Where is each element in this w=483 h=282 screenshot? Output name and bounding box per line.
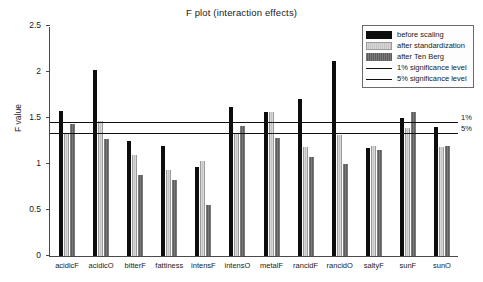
bar — [400, 118, 404, 256]
legend-label: 1% significance level — [397, 63, 467, 73]
bar — [366, 148, 370, 256]
bar — [93, 70, 97, 256]
bar-group — [59, 27, 75, 256]
legend-swatch — [366, 53, 392, 61]
bar — [371, 146, 376, 256]
bar — [377, 150, 382, 256]
bar — [275, 138, 280, 256]
y-tick-label: 2.5 — [29, 20, 41, 30]
bar — [64, 134, 69, 256]
bar-group — [332, 27, 348, 256]
bar — [138, 175, 143, 256]
bar — [229, 107, 233, 256]
x-axis-tick-label: acidicO — [89, 261, 114, 270]
bar — [206, 205, 211, 256]
y-tick-label: 1 — [36, 158, 41, 168]
bar-group — [127, 27, 143, 256]
bar-group — [264, 27, 280, 256]
x-axis-tick-label: rancidF — [293, 261, 318, 270]
x-axis-tick-label: saltyF — [364, 261, 384, 270]
bar-group — [161, 27, 177, 256]
x-axis-tick-label: acidicF — [55, 261, 79, 270]
f-plot-figure: F plot (interaction effects) F value 00.… — [0, 0, 483, 282]
bar — [166, 170, 171, 256]
bar — [269, 112, 274, 256]
bar-group — [195, 27, 211, 256]
bar — [303, 147, 308, 256]
bar — [337, 135, 342, 256]
legend-label: after Ten Berg — [397, 52, 444, 62]
legend-item: after Ten Berg — [366, 51, 469, 62]
legend-item: 5% significance level — [366, 73, 469, 84]
bar-group — [93, 27, 109, 256]
legend: before scalingafter standardizationafter… — [362, 25, 474, 88]
bar — [405, 128, 410, 256]
y-tick-label: 0 — [36, 250, 41, 260]
bar-group — [229, 27, 245, 256]
bar — [98, 121, 103, 256]
bar — [70, 124, 75, 256]
bar — [172, 180, 177, 256]
bar — [200, 161, 205, 256]
significance-line-5pct: 5% — [50, 133, 458, 134]
significance-line-label: 5% — [461, 124, 472, 133]
bar — [439, 147, 444, 256]
bar-group — [298, 27, 314, 256]
significance-line-label: 1% — [461, 113, 472, 122]
legend-swatch — [366, 42, 392, 50]
legend-label: before scaling — [397, 30, 444, 40]
bar — [234, 134, 239, 256]
x-axis-tick-label: intensO — [225, 261, 251, 270]
x-axis-tick-label: fattiness — [155, 261, 183, 270]
bar — [132, 155, 137, 256]
legend-item: 1% significance level — [366, 62, 469, 73]
y-tick-label: 0.5 — [29, 204, 41, 214]
significance-line-1pct: 1% — [50, 122, 458, 123]
bar — [240, 126, 245, 256]
legend-swatch — [366, 31, 392, 39]
legend-line-marker — [366, 75, 392, 83]
chart-title: F plot (interaction effects) — [0, 7, 483, 18]
x-axis-tick-label: sunF — [400, 261, 417, 270]
bar — [195, 167, 199, 256]
y-axis-label: F value — [13, 104, 23, 132]
y-tick-label: 2 — [36, 66, 41, 76]
legend-line-marker — [366, 64, 392, 72]
bar — [434, 127, 438, 256]
bar — [445, 146, 450, 256]
bar — [161, 146, 165, 256]
bar — [127, 141, 131, 256]
bar — [104, 139, 109, 256]
bar — [332, 61, 336, 256]
x-axis-tick-label: intensF — [191, 261, 216, 270]
x-axis-tick-label: sunO — [433, 261, 451, 270]
y-tick: 2.5 — [46, 25, 50, 26]
legend-label: after standardization — [397, 41, 465, 51]
legend-item: after standardization — [366, 40, 469, 51]
x-axis-tick-label: metalF — [260, 261, 283, 270]
y-tick-label: 1.5 — [29, 112, 41, 122]
legend-label: 5% significance level — [397, 74, 467, 84]
legend-item: before scaling — [366, 29, 469, 40]
x-axis-tick-label: bitterF — [125, 261, 146, 270]
x-axis-tick-label: rancidO — [327, 261, 353, 270]
bar — [343, 164, 348, 256]
bar — [309, 157, 314, 256]
